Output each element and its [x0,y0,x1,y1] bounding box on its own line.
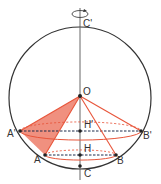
label-o: O [83,86,91,97]
sphere-cone-diagram: C' O H' A' B' H A B C [0,0,161,184]
label-a-prime: A' [7,128,16,139]
label-c: C [84,168,91,179]
label-h: H [84,143,91,154]
label-a: A [34,154,41,165]
label-h-prime: H' [84,119,93,130]
label-c-prime: C' [83,18,92,29]
label-b: B [117,155,124,166]
label-b-prime: B' [143,130,152,141]
